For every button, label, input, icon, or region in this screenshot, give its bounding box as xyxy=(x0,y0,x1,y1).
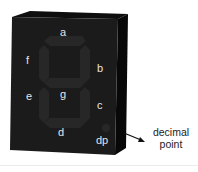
segment-label-a: a xyxy=(60,27,66,38)
segment-label-d: d xyxy=(58,127,64,138)
segment-label-dp: dp xyxy=(96,135,108,146)
seven-segment-diagram: a b c d e f g dp decimal point xyxy=(0,0,198,172)
callout-line-2: point xyxy=(146,138,196,150)
decimal-point-callout: decimal point xyxy=(146,126,196,150)
segment-label-b: b xyxy=(97,63,103,74)
baseline-divider xyxy=(0,165,198,166)
segment-label-g: g xyxy=(60,89,66,100)
segment-label-e: e xyxy=(26,91,32,102)
segment-label-c: c xyxy=(97,100,103,111)
callout-line-1: decimal xyxy=(146,126,196,138)
segment-label-f: f xyxy=(26,55,29,66)
